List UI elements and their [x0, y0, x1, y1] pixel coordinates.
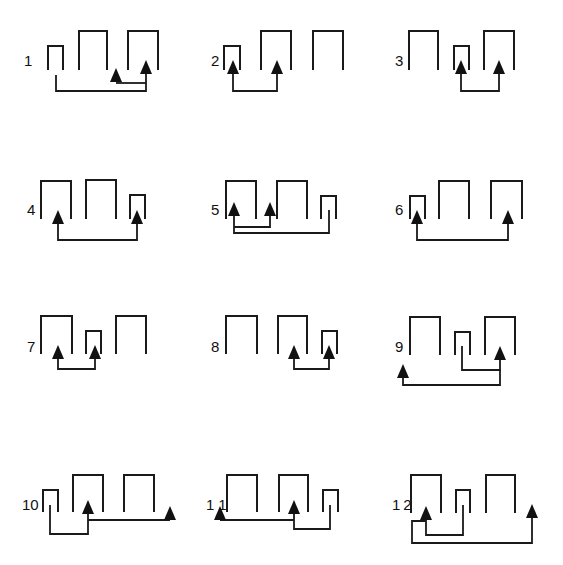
arrow-icon: [420, 506, 432, 520]
gate-large: [491, 181, 522, 219]
panel-label: 5: [211, 201, 219, 218]
arrow-icon: [288, 345, 300, 359]
arrow-icon: [82, 500, 94, 514]
gate-large: [79, 31, 107, 70]
gate-large: [486, 475, 515, 513]
arrow-icon: [228, 202, 240, 216]
panel-label: 6: [395, 201, 403, 218]
arrow-icon: [52, 210, 64, 224]
gate-large: [41, 316, 72, 354]
panel-label: 3: [395, 52, 403, 69]
panel-4: 4: [27, 180, 145, 240]
panel-1: 1: [24, 31, 158, 91]
gate-large: [41, 181, 71, 219]
arrow-icon: [89, 345, 101, 359]
arrow-icon: [502, 210, 514, 224]
panel-label: 7: [27, 338, 35, 355]
panel-2: 2: [211, 31, 343, 91]
panel-7: 7: [27, 316, 146, 369]
arrow-icon: [411, 210, 423, 224]
arrow-icon: [455, 60, 467, 74]
arrow-icon: [397, 364, 409, 378]
gate-large: [278, 316, 307, 354]
panel-12: 12: [392, 475, 538, 543]
gate-large: [128, 31, 158, 70]
arrow-icon: [323, 345, 335, 359]
gate-large: [313, 31, 343, 70]
panel-label: 4: [27, 201, 35, 218]
arrow-icon: [227, 60, 239, 74]
panel-label: 10: [22, 496, 39, 513]
panel-label: 9: [395, 338, 403, 355]
arrow-icon: [131, 210, 143, 224]
arrow-icon: [526, 504, 538, 518]
panel-8: 8: [211, 316, 337, 369]
gate-large: [116, 316, 146, 354]
panel-label: 1: [24, 52, 32, 69]
arrow-icon: [264, 202, 276, 216]
arrow-icon: [494, 346, 506, 360]
arrow-icon: [52, 345, 64, 359]
arrow-icon: [493, 60, 505, 74]
arrow-icon: [288, 500, 300, 514]
gate-large: [439, 181, 469, 219]
diagram-figure: 1 2 3 4 5: [0, 0, 563, 565]
panel-10: 10: [22, 475, 176, 534]
panel-3: 3: [395, 31, 514, 91]
gate-large: [226, 316, 257, 354]
arrow-icon: [140, 60, 152, 74]
panel-11: 11: [206, 475, 338, 529]
gate-large: [124, 475, 154, 512]
panel-5: 5: [211, 181, 336, 233]
panel-9: 9: [395, 317, 515, 385]
gate-large: [409, 31, 438, 70]
arrow-icon: [110, 68, 122, 82]
arrow-icon: [271, 60, 283, 74]
gate-large: [410, 317, 440, 355]
gate-large: [86, 180, 116, 219]
panel-label: 2: [211, 52, 219, 69]
panel-6: 6: [395, 181, 522, 240]
panel-label: 8: [211, 338, 219, 355]
arrow-icon: [164, 506, 176, 520]
gate-large: [277, 181, 307, 219]
gate-small: [48, 46, 63, 70]
